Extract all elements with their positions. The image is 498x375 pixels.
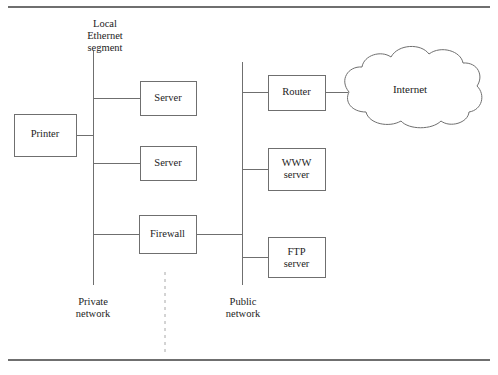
diagram-page: Local Ethernet segment Printer Server Se… bbox=[0, 0, 498, 375]
network-diagram: Local Ethernet segment Printer Server Se… bbox=[0, 0, 498, 358]
node-box-printer[interactable] bbox=[15, 115, 77, 157]
node-box-router[interactable] bbox=[269, 76, 326, 111]
node-box-server-2[interactable] bbox=[141, 147, 197, 181]
page-rule-bottom bbox=[8, 359, 490, 361]
node-box-www-server[interactable] bbox=[269, 149, 326, 191]
internet-cloud-shape[interactable] bbox=[345, 46, 482, 127]
diagram-canvas bbox=[0, 0, 498, 358]
node-box-server-1[interactable] bbox=[141, 82, 197, 116]
node-box-ftp-server[interactable] bbox=[269, 238, 326, 278]
node-box-firewall[interactable] bbox=[140, 216, 197, 254]
